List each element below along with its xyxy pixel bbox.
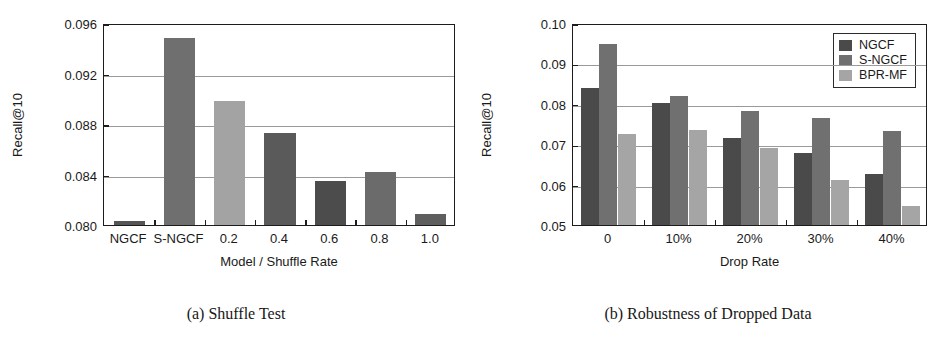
bar [315, 181, 346, 225]
panel-shuffle-test: Recall@10 0.0800.0840.0880.0920.096 NGCF… [0, 0, 472, 355]
bar [415, 214, 446, 225]
bar [723, 138, 741, 225]
y-axis-tick-mark [573, 65, 578, 66]
x-axis-tick-label: 0 [604, 231, 611, 246]
legend: NGCFS-NGCFBPR-MF [833, 33, 916, 88]
y-axis-tick-label: 0.092 [64, 67, 97, 82]
x-axis-title: Drop Rate [572, 254, 927, 269]
y-axis-tick-mark [573, 24, 578, 25]
y-axis-tick-label: 0.088 [64, 118, 97, 133]
panel-robustness-dropped-data: Recall@10 0.050.060.070.080.090.10 NGCFS… [472, 0, 944, 355]
bar [794, 153, 812, 225]
x-axis-tick-mark [305, 220, 306, 225]
x-axis-tick-label: 0.6 [320, 231, 338, 246]
panel-caption-a: (a) Shuffle Test [0, 305, 472, 323]
y-axis-tick-label: 0.09 [541, 57, 566, 72]
x-axis-tick-label: NGCF [110, 231, 147, 246]
legend-swatch-icon [839, 55, 852, 66]
bar [114, 221, 145, 225]
y-axis-tick-label: 0.06 [541, 178, 566, 193]
plot-area-robustness: NGCFS-NGCFBPR-MF [572, 24, 927, 226]
y-axis-tick-mark [573, 105, 578, 106]
x-axis-tick-mark [644, 220, 645, 225]
bar [164, 38, 195, 225]
bar [831, 180, 849, 225]
y-axis-tick-mark [573, 186, 578, 187]
y-axis-tick-label: 0.08 [541, 97, 566, 112]
legend-item: NGCF [839, 38, 907, 53]
x-axis-tick-label: 1.0 [421, 231, 439, 246]
bar [883, 131, 901, 225]
legend-swatch-icon [839, 40, 852, 51]
y-axis-title: Recall@10 [479, 93, 494, 157]
bar [689, 130, 707, 225]
y-axis-tick-labels: 0.0800.0840.0880.0920.096 [41, 24, 97, 226]
bar [741, 111, 759, 225]
bar [812, 118, 830, 225]
x-axis-tick-label: 0.2 [220, 231, 238, 246]
bar [264, 133, 295, 225]
bar [214, 101, 245, 225]
legend-swatch-icon [839, 70, 852, 81]
y-axis-tick-label: 0.084 [64, 168, 97, 183]
x-axis-tick-mark [154, 220, 155, 225]
bar [618, 134, 636, 225]
bar [599, 44, 617, 225]
x-axis-tick-label: 30% [807, 231, 833, 246]
y-axis-tick-mark [104, 75, 109, 76]
y-axis-tick-mark [104, 24, 109, 25]
bar [365, 172, 396, 225]
y-axis-tick-label: 0.05 [541, 219, 566, 234]
bar [760, 148, 778, 225]
x-axis-tick-mark [255, 220, 256, 225]
x-axis-tick-mark [786, 220, 787, 225]
gridline [573, 65, 926, 66]
x-axis-tick-mark [205, 220, 206, 225]
x-axis-tick-label: 10% [665, 231, 691, 246]
bar [670, 96, 688, 225]
y-axis-tick-label: 0.10 [541, 17, 566, 32]
plot-area-shuffle-test [103, 24, 455, 226]
x-axis-tick-mark [406, 220, 407, 225]
bar [652, 103, 670, 225]
gridline [573, 106, 926, 107]
y-axis-tick-label: 0.096 [64, 17, 97, 32]
x-axis-tick-label: S-NGCF [154, 231, 204, 246]
gridline [104, 76, 454, 77]
x-axis-tick-label: 20% [736, 231, 762, 246]
x-axis-title: Model / Shuffle Rate [103, 254, 455, 269]
y-axis-tick-labels: 0.050.060.070.080.090.10 [510, 24, 566, 226]
x-axis-tick-mark [355, 220, 356, 225]
x-axis-tick-mark [715, 220, 716, 225]
x-axis-tick-label: 0.4 [270, 231, 288, 246]
legend-label: BPR-MF [859, 69, 907, 82]
gridline [104, 126, 454, 127]
figure-root: Recall@10 0.0800.0840.0880.0920.096 NGCF… [0, 0, 945, 355]
legend-label: NGCF [859, 39, 894, 52]
x-axis-tick-label: 0.8 [371, 231, 389, 246]
y-axis-tick-mark [573, 146, 578, 147]
y-axis-tick-mark [104, 125, 109, 126]
x-axis-tick-label: 40% [878, 231, 904, 246]
bar [865, 174, 883, 225]
y-axis-title: Recall@10 [10, 93, 25, 157]
y-axis-tick-mark [104, 176, 109, 177]
y-axis-tick-label: 0.07 [541, 138, 566, 153]
bar [581, 88, 599, 225]
bar [902, 206, 920, 225]
panel-caption-b: (b) Robustness of Dropped Data [472, 305, 944, 323]
legend-item: BPR-MF [839, 68, 907, 83]
x-axis-tick-mark [857, 220, 858, 225]
y-axis-tick-label: 0.080 [64, 219, 97, 234]
